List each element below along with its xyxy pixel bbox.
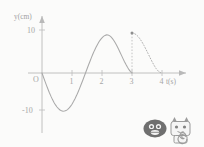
figure-container: O 1 2 3 4 10 -10 y(cm) t(s)	[0, 0, 204, 147]
x-tick-label-1: 1	[70, 77, 74, 86]
watermark-badge-icon	[144, 120, 167, 138]
x-tick-label-4: 4	[160, 77, 164, 86]
y-axis-title: y(cm)	[14, 12, 32, 21]
x-axis-arrowhead	[179, 70, 186, 76]
origin-label: O	[33, 75, 39, 84]
x-axis-title: t(s)	[166, 77, 176, 86]
y-axis-arrowhead	[39, 16, 45, 23]
y-tick-label-neg10: -10	[22, 106, 33, 115]
watermark-cat-icon	[171, 117, 190, 144]
x-tick-label-2: 2	[100, 77, 104, 86]
x-tick-label-3: 3	[130, 77, 134, 86]
y-tick-label-10: 10	[27, 26, 35, 35]
publisher-watermark	[141, 112, 201, 145]
curve-dotted-extension	[132, 33, 162, 73]
peak-marker-dot	[131, 32, 134, 35]
